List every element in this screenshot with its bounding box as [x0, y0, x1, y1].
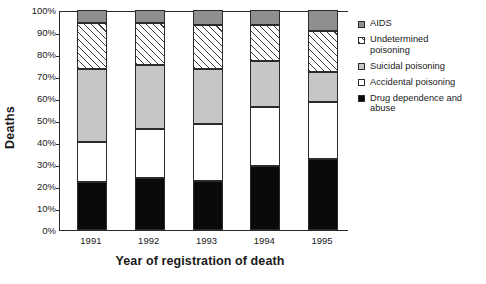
y-axis-tick-label: 90%: [20, 28, 56, 38]
y-axis-tick-label: 40%: [20, 138, 56, 148]
bar-1994[interactable]: [250, 12, 280, 230]
legend-swatch-icon: [358, 37, 365, 44]
y-axis-tick-mark: [56, 78, 60, 79]
bar-segment[interactable]: [308, 159, 338, 231]
y-axis-tick-label: 20%: [20, 182, 56, 192]
y-axis-tick-mark: [56, 56, 60, 57]
bar-segment[interactable]: [135, 129, 165, 179]
bar-segment[interactable]: [135, 178, 165, 230]
y-axis-tick-label: 70%: [20, 72, 56, 82]
y-axis-tick-labels: 0%10%20%30%40%50%60%70%80%90%100%: [20, 11, 56, 231]
x-axis-tick-label-1994: 1994: [234, 236, 294, 246]
bar-1993[interactable]: [193, 12, 223, 230]
plot-inner: [60, 12, 348, 230]
legend-item[interactable]: AIDS: [358, 18, 484, 29]
bar-1995[interactable]: [308, 12, 338, 230]
bar-1992[interactable]: [135, 12, 165, 230]
bar-segment[interactable]: [250, 166, 280, 230]
bar-segment[interactable]: [193, 181, 223, 231]
y-axis-tick-label: 0%: [20, 226, 56, 236]
legend-label: Suicidal poisoning: [370, 61, 445, 72]
bar-segment[interactable]: [77, 182, 107, 230]
y-axis-tick-mark: [56, 166, 60, 167]
y-axis-tick-label: 60%: [20, 94, 56, 104]
bar-segment[interactable]: [308, 10, 338, 31]
bar-segment[interactable]: [135, 65, 165, 129]
legend-label: Undetermined poisoning: [370, 34, 428, 55]
legend-label: Drug dependence and abuse: [370, 93, 462, 114]
bar-segment[interactable]: [77, 10, 107, 23]
bar-segment[interactable]: [193, 69, 223, 124]
y-axis-tick-mark: [56, 34, 60, 35]
legend-item[interactable]: Drug dependence and abuse: [358, 93, 484, 114]
chart-legend: AIDSUndetermined poisoningSuicidal poiso…: [358, 18, 484, 119]
bar-segment[interactable]: [77, 142, 107, 182]
legend-swatch-icon: [358, 79, 365, 86]
bar-segment[interactable]: [135, 23, 165, 65]
y-axis-tick-label: 30%: [20, 160, 56, 170]
bar-segment[interactable]: [193, 124, 223, 180]
y-axis-tick-label: 50%: [20, 116, 56, 126]
x-axis-tick-label-1992: 1992: [119, 236, 179, 246]
y-axis-tick-mark: [56, 188, 60, 189]
bar-segment[interactable]: [308, 102, 338, 158]
bar-segment[interactable]: [308, 72, 338, 103]
bar-segment[interactable]: [193, 10, 223, 25]
x-axis-tick-label-1991: 1991: [61, 236, 121, 246]
x-axis-title: Year of registration of death: [40, 254, 360, 268]
bar-segment[interactable]: [135, 10, 165, 23]
y-axis-tick-mark: [56, 122, 60, 123]
y-axis-title: Deaths: [2, 78, 18, 178]
legend-label: Accidental poisoning: [370, 77, 455, 88]
y-axis-tick-label: 10%: [20, 204, 56, 214]
bar-segment[interactable]: [77, 69, 107, 142]
y-axis-tick-mark: [56, 144, 60, 145]
y-axis-tick-label: 80%: [20, 50, 56, 60]
plot-area: [59, 11, 348, 231]
bar-1991[interactable]: [77, 12, 107, 230]
legend-label: AIDS: [370, 18, 392, 29]
bar-segment[interactable]: [77, 23, 107, 69]
bar-segment[interactable]: [308, 31, 338, 72]
y-axis-tick-mark: [56, 100, 60, 101]
bar-segment[interactable]: [250, 25, 280, 60]
bar-segment[interactable]: [250, 10, 280, 25]
bar-segment[interactable]: [250, 107, 280, 166]
legend-swatch-icon: [358, 95, 365, 102]
legend-swatch-icon: [358, 63, 365, 70]
stacked-bar-chart: Deaths 0%10%20%30%40%50%60%70%80%90%100%…: [0, 0, 486, 284]
x-axis-tick-label-1995: 1995: [292, 236, 352, 246]
x-axis-tick-label-1993: 1993: [177, 236, 237, 246]
bar-segment[interactable]: [193, 25, 223, 69]
legend-item[interactable]: Undetermined poisoning: [358, 34, 484, 55]
y-axis-tick-label: 100%: [20, 6, 56, 16]
legend-swatch-icon: [358, 21, 365, 28]
bar-segment[interactable]: [250, 61, 280, 107]
legend-item[interactable]: Accidental poisoning: [358, 77, 484, 88]
y-axis-tick-mark: [56, 210, 60, 211]
legend-item[interactable]: Suicidal poisoning: [358, 61, 484, 72]
